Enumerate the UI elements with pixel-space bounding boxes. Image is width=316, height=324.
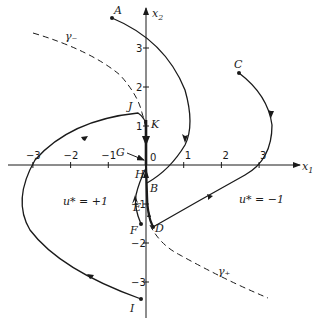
point-I-dot	[139, 297, 143, 301]
point-G-label: G	[116, 146, 125, 159]
gamma-plus-curve	[150, 225, 268, 298]
y-axis-label: x2	[152, 7, 163, 22]
region-label-right: u* = −1	[239, 193, 284, 206]
origin-label: 0	[150, 152, 156, 163]
gamma-minus-curve	[33, 33, 146, 130]
x-tick-label: 2	[222, 150, 228, 161]
point-I-label: I	[129, 302, 135, 315]
trajectory-K-origin	[142, 120, 150, 165]
g-pointer-arrow	[127, 153, 144, 160]
y-tick-label: 2	[136, 82, 142, 93]
point-H-label: H	[134, 168, 145, 181]
y-tick-label: −2	[131, 238, 146, 249]
point-E-label: E	[132, 201, 141, 214]
x-tick-label: −2	[64, 150, 79, 161]
point-C-dot	[237, 71, 241, 75]
point-F-dot	[139, 222, 143, 226]
y-tick-label: −3	[131, 277, 146, 288]
direction-arrow-icon	[81, 136, 88, 141]
point-D-label: D	[154, 222, 164, 235]
gamma-plus-label: γ₊	[218, 265, 231, 278]
point-F-label: F	[129, 224, 138, 237]
point-J-label: J	[126, 100, 133, 113]
direction-arrow-icon	[268, 110, 274, 118]
x-axis-label: x1	[302, 160, 313, 175]
x-axis: −3−2−1123 x1	[8, 150, 313, 175]
x-tick-label: −1	[101, 150, 116, 161]
x-tick-label: 1	[185, 150, 191, 161]
point-C-label: C	[234, 58, 243, 71]
point-B-label: B	[149, 182, 158, 195]
point-A-label: A	[113, 4, 122, 17]
gamma-minus-label: γ₋	[65, 30, 78, 43]
direction-arrow-icon	[142, 136, 150, 146]
point-K-label: K	[150, 118, 160, 131]
y-tick-label: 1	[136, 121, 142, 132]
y-tick-label: 3	[136, 43, 142, 54]
region-label-left: u* = +1	[63, 195, 108, 208]
phase-plane-diagram: −3−2−1123 x1 321−1−2−3 x2 0 γ₋ γ₊	[0, 0, 316, 324]
